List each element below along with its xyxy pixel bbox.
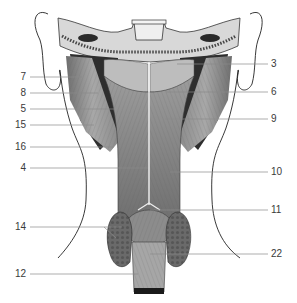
- esophagus: [132, 242, 166, 294]
- label-15: 15: [0, 120, 26, 130]
- label-3: 3: [271, 59, 277, 69]
- label-4: 4: [0, 163, 26, 173]
- label-7: 7: [0, 72, 26, 82]
- pharynx-posterior-view-illustration: [0, 0, 297, 303]
- label-6: 6: [271, 87, 277, 97]
- pharyngeal-constrictors: [104, 62, 194, 232]
- inferior-region: [125, 210, 173, 246]
- label-11: 11: [271, 205, 281, 215]
- label-22: 22: [271, 249, 282, 259]
- label-14: 14: [0, 222, 26, 232]
- label-10: 10: [271, 167, 282, 177]
- label-8: 8: [0, 88, 26, 98]
- label-9: 9: [271, 114, 277, 124]
- label-5: 5: [0, 104, 26, 114]
- label-16: 16: [0, 142, 26, 152]
- label-12: 12: [0, 269, 26, 279]
